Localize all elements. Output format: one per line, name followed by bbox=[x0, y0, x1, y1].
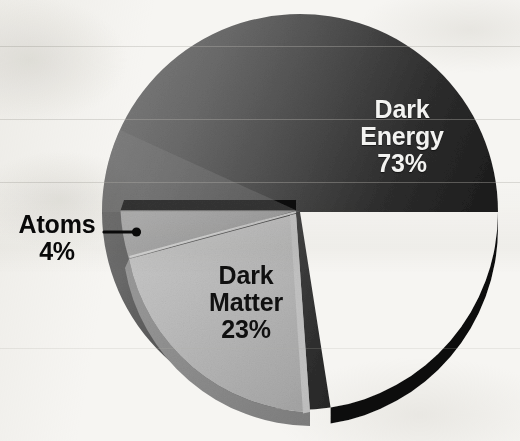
slice-value-atoms: 4% bbox=[4, 238, 110, 265]
slice-label-dark-matter: Dark Matter 23% bbox=[184, 262, 308, 343]
slice-label-atoms-line1: Atoms bbox=[4, 211, 110, 238]
atoms-leader-dot bbox=[132, 227, 141, 236]
slice-label-dark-matter-line1: Dark bbox=[184, 262, 308, 289]
slice-label-dark-matter-line2: Matter bbox=[184, 289, 308, 316]
pie-chart-figure: Dark Energy 73% Dark Matter 23% Atoms 4% bbox=[0, 0, 520, 441]
slice-dark-energy-depth bbox=[331, 212, 498, 424]
slice-label-dark-energy-line2: Energy bbox=[340, 123, 464, 150]
slice-label-dark-energy: Dark Energy 73% bbox=[340, 96, 464, 177]
slice-value-dark-matter: 23% bbox=[184, 316, 308, 343]
slice-label-atoms: Atoms 4% bbox=[4, 211, 110, 265]
slice-value-dark-energy: 73% bbox=[340, 150, 464, 177]
slice-label-dark-energy-line1: Dark bbox=[340, 96, 464, 123]
